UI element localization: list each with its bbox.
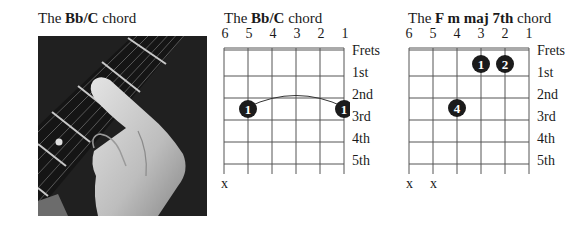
chord-name: Bb/C (251, 10, 284, 26)
diagram2-fretboard-grid: 1 2 4 (405, 44, 535, 180)
fret-label: Frets (352, 43, 380, 59)
fret-label: 3rd (352, 109, 371, 125)
svg-text:4: 4 (454, 101, 461, 116)
finger-dot: 4 (448, 99, 466, 117)
finger-dot: 2 (496, 55, 514, 73)
title-text: The (224, 10, 251, 26)
fret-label: Frets (537, 43, 565, 59)
svg-text:1: 1 (478, 57, 485, 72)
fret-label: 3rd (537, 109, 556, 125)
fret-label: 4th (352, 131, 370, 147)
fret-label: 2nd (537, 87, 558, 103)
string-number: 6 (222, 26, 229, 42)
title-text: The (38, 10, 65, 26)
string-number: 2 (502, 26, 509, 42)
fret-label: 5th (352, 153, 370, 169)
muted-string-marker: x (221, 176, 228, 192)
svg-text:1: 1 (245, 102, 252, 117)
fret-label: 5th (537, 153, 555, 169)
fret-label: 1st (537, 65, 553, 81)
svg-text:1: 1 (341, 102, 348, 117)
string-number: 5 (430, 26, 437, 42)
photo-title: The Bb/C chord (38, 10, 136, 27)
title-text: chord (98, 10, 136, 26)
fret-label: 4th (537, 131, 555, 147)
title-text: chord (284, 10, 322, 26)
string-number: 1 (526, 26, 533, 42)
svg-text:2: 2 (502, 57, 509, 72)
fret-label: 1st (352, 65, 368, 81)
string-number: 5 (246, 26, 253, 42)
string-number: 3 (294, 26, 301, 42)
fret-label: 2nd (352, 87, 373, 103)
string-number: 2 (318, 26, 325, 42)
finger-dot: 1 (335, 100, 350, 118)
string-number: 3 (478, 26, 485, 42)
chord-name: Bb/C (65, 10, 98, 26)
muted-string-marker: x (406, 176, 413, 192)
title-text: chord (513, 10, 551, 26)
string-number: 1 (342, 26, 349, 42)
chord-photo (38, 36, 207, 216)
diagram1-title: The Bb/C chord (224, 10, 322, 27)
finger-dot: 1 (239, 100, 257, 118)
diagram2-title: The F m maj 7th chord (408, 10, 551, 27)
hand-on-fretboard-image (38, 36, 207, 216)
chord-name: F m maj 7th (435, 10, 513, 26)
string-number: 4 (270, 26, 277, 42)
finger-dot: 1 (472, 55, 490, 73)
string-number: 4 (454, 26, 461, 42)
muted-string-marker: x (430, 176, 437, 192)
title-text: The (408, 10, 435, 26)
string-number: 6 (406, 26, 413, 42)
diagram1-fretboard-grid: 1 1 (220, 44, 350, 180)
